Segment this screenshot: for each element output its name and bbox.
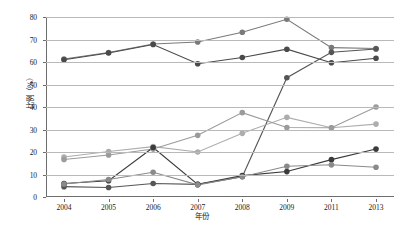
data-point-marker <box>284 115 290 121</box>
x-tick-mark <box>64 199 65 202</box>
gridline <box>46 17 394 18</box>
x-tick-mark <box>242 199 243 202</box>
data-point-marker <box>106 177 112 183</box>
data-point-marker <box>150 42 156 48</box>
data-point-marker <box>373 165 379 171</box>
data-point-marker <box>239 131 245 137</box>
gridline <box>46 130 394 131</box>
data-point-marker <box>61 181 67 187</box>
x-tick-mark <box>287 199 288 202</box>
x-tick-mark <box>198 199 199 202</box>
data-point-marker <box>329 162 335 168</box>
data-point-marker <box>150 145 156 151</box>
y-tick-mark <box>43 197 46 198</box>
gridline <box>46 62 394 63</box>
data-point-marker <box>239 30 245 36</box>
data-point-marker <box>195 182 201 188</box>
x-tick-mark <box>376 199 377 202</box>
x-tick-mark <box>109 199 110 202</box>
y-tick-mark <box>43 130 46 131</box>
y-axis-tick-labels: 01020304050607080 <box>0 17 42 197</box>
data-point-marker <box>150 181 156 187</box>
data-point-marker <box>284 46 290 52</box>
data-point-marker <box>373 55 379 61</box>
y-tick-mark <box>43 152 46 153</box>
gridline <box>46 107 394 108</box>
y-tick-mark <box>43 85 46 86</box>
data-point-marker <box>195 133 201 139</box>
data-point-marker <box>373 46 379 52</box>
data-point-marker <box>284 163 290 169</box>
data-point-marker <box>329 157 335 163</box>
y-tick-mark <box>43 107 46 108</box>
y-tick-mark <box>43 175 46 176</box>
data-point-marker <box>284 75 290 81</box>
y-tick-label: 10 <box>30 170 37 179</box>
gridline <box>46 175 394 176</box>
data-point-marker <box>106 185 112 191</box>
data-point-marker <box>239 110 245 116</box>
x-tick-mark <box>331 199 332 202</box>
data-point-marker <box>61 157 67 163</box>
gridline <box>46 152 394 153</box>
x-axis-title: 年份 <box>0 210 403 221</box>
x-tick-mark <box>153 199 154 202</box>
gridline <box>46 40 394 41</box>
data-point-marker <box>106 50 112 56</box>
y-tick-label: 70 <box>30 35 37 44</box>
y-tick-label: 0 <box>33 193 37 202</box>
y-tick-label: 80 <box>30 13 37 22</box>
y-tick-mark <box>43 40 46 41</box>
y-axis-title: 比例（%） <box>24 62 35 122</box>
figure-caption <box>0 228 403 233</box>
data-point-marker <box>373 121 379 127</box>
y-tick-label: 30 <box>30 125 37 134</box>
data-point-marker <box>329 50 335 56</box>
y-tick-label: 20 <box>30 148 37 157</box>
y-tick-mark <box>43 17 46 18</box>
y-tick-mark <box>43 62 46 63</box>
gridline <box>46 85 394 86</box>
chart-figure: 01020304050607080 比例（%） 2004200520062007… <box>0 0 403 233</box>
data-point-marker <box>239 55 245 61</box>
series-line <box>64 49 376 188</box>
plot-area <box>46 17 394 197</box>
